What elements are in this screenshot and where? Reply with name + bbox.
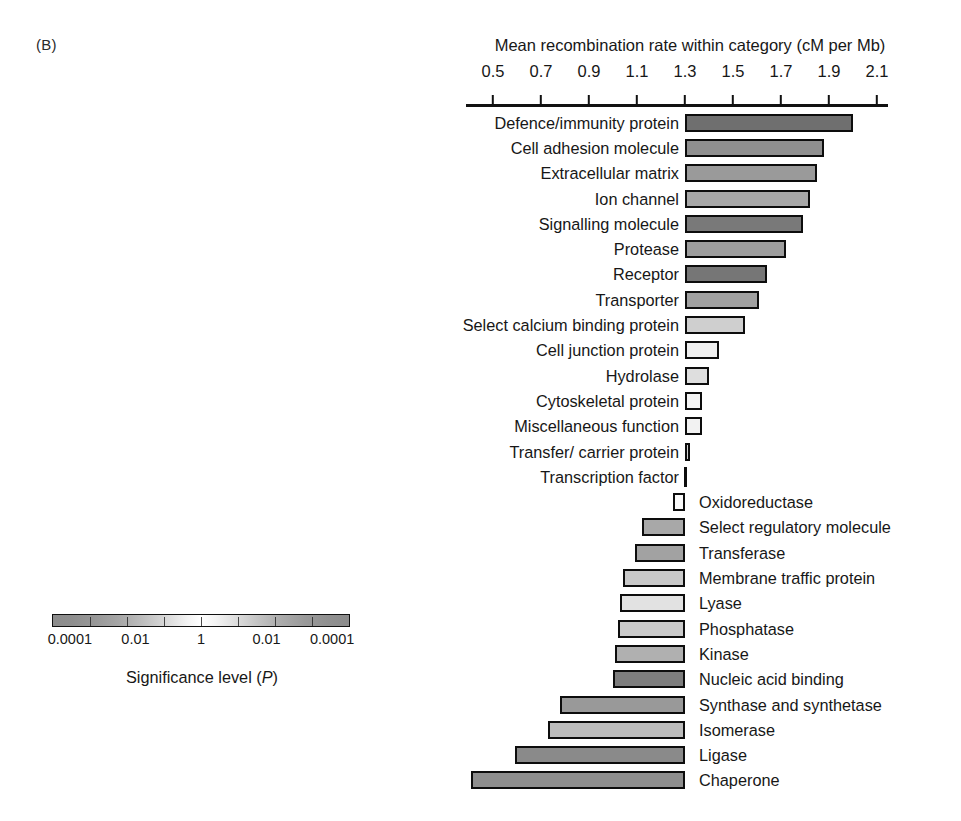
bar-category-label: Protease: [614, 241, 679, 257]
bar-row: Ion channel: [0, 186, 961, 211]
x-tick-label: 1.1: [626, 62, 649, 81]
bar: [642, 518, 685, 536]
x-tick-label: 1.5: [722, 62, 745, 81]
legend-caption-end: ): [273, 668, 278, 686]
bar: [548, 721, 685, 739]
bar: [635, 544, 685, 562]
colorbar-tick: [312, 617, 313, 626]
bar-category-label: Transcription factor: [540, 469, 679, 485]
x-tick-label: 2.1: [866, 62, 889, 81]
bar: [685, 114, 853, 132]
bar-row: Receptor: [0, 262, 961, 287]
bar-row: Cell junction protein: [0, 338, 961, 363]
x-tick-label: 1.7: [770, 62, 793, 81]
bar: [515, 746, 685, 764]
bar: [685, 417, 702, 435]
bar: [620, 594, 685, 612]
bar: [685, 190, 810, 208]
bar-category-label: Cell adhesion molecule: [511, 140, 679, 156]
bar: [685, 291, 759, 309]
bar-category-label: Hydrolase: [606, 367, 679, 383]
bar-category-label: Oxidoreductase: [699, 494, 813, 510]
figure-panel: (B) Mean recombination rate within categ…: [0, 0, 961, 821]
bar-row: Select regulatory molecule: [0, 515, 961, 540]
x-tick-mark: [780, 95, 782, 105]
bar: [618, 620, 685, 638]
colorbar-tick: [127, 617, 128, 626]
bar-row: Isomerase: [0, 717, 961, 742]
bar-row: Transfer/ carrier protein: [0, 439, 961, 464]
legend-caption: Significance level (P): [52, 668, 352, 687]
bar-row: Lyase: [0, 591, 961, 616]
x-tick-mark: [492, 95, 494, 105]
bar-row: Oxidoreductase: [0, 490, 961, 515]
significance-colorbar-legend: 0.00010.0110.010.0001: [52, 614, 352, 653]
bar-category-label: Cell junction protein: [536, 342, 679, 358]
colorbar-label: 0.0001: [48, 631, 92, 647]
bar: [673, 493, 685, 511]
bar: [684, 467, 687, 487]
bar-category-label: Transferase: [699, 545, 785, 561]
legend-caption-italic: P: [262, 668, 273, 686]
bar-category-label: Kinase: [699, 646, 749, 662]
bar-row: Chaperone: [0, 768, 961, 793]
bar-plot-area: Defence/immunity proteinCell adhesion mo…: [0, 110, 961, 810]
x-axis-line: [466, 104, 888, 107]
x-tick-label: 0.5: [482, 62, 505, 81]
bar-category-label: Receptor: [613, 266, 679, 282]
bar: [685, 215, 803, 233]
bar-row: Signalling molecule: [0, 211, 961, 236]
bar: [685, 392, 702, 410]
bar: [685, 240, 786, 258]
bar-category-label: Transporter: [595, 292, 679, 308]
bar-category-label: Select regulatory molecule: [699, 519, 891, 535]
x-tick-mark: [684, 95, 686, 105]
x-tick-mark: [732, 95, 734, 105]
colorbar-tick: [275, 617, 276, 626]
bar-row: Defence/immunity protein: [0, 110, 961, 135]
x-tick-mark: [588, 95, 590, 105]
bar: [560, 696, 685, 714]
bar: [685, 316, 745, 334]
bar-row: Miscellaneous function: [0, 414, 961, 439]
bar-category-label: Phosphatase: [699, 620, 794, 636]
bar: [685, 367, 709, 385]
bar-category-label: Ion channel: [595, 190, 679, 206]
colorbar-label: 0.01: [252, 631, 280, 647]
bar-row: Membrane traffic protein: [0, 565, 961, 590]
x-axis-title: Mean recombination rate within category …: [425, 36, 955, 55]
bar-row: Extracellular matrix: [0, 161, 961, 186]
bar-row: Protease: [0, 237, 961, 262]
bar-row: Transcription factor: [0, 464, 961, 489]
bar-row: Cell adhesion molecule: [0, 135, 961, 160]
bar-row: Transferase: [0, 540, 961, 565]
x-tick-mark: [876, 95, 878, 105]
bar-category-label: Ligase: [699, 747, 747, 763]
bar: [623, 569, 685, 587]
x-tick-mark: [828, 95, 830, 105]
bar-category-label: Isomerase: [699, 722, 775, 738]
x-tick-label: 1.3: [674, 62, 697, 81]
bar-category-label: Synthase and synthetase: [699, 696, 882, 712]
panel-letter: (B): [36, 36, 57, 53]
bar: [685, 265, 767, 283]
colorbar-tick: [238, 617, 239, 626]
bar: [471, 771, 685, 789]
bar-category-label: Lyase: [699, 595, 742, 611]
colorbar-label: 0.0001: [310, 631, 354, 647]
colorbar-label: 1: [197, 631, 205, 647]
bar-category-label: Signalling molecule: [539, 216, 679, 232]
bar-category-label: Cytoskeletal protein: [536, 393, 679, 409]
bar: [685, 164, 817, 182]
bar-row: Cytoskeletal protein: [0, 388, 961, 413]
colorbar-tick: [164, 617, 165, 626]
bar: [685, 341, 719, 359]
colorbar-tick: [201, 617, 202, 626]
bar: [615, 645, 685, 663]
bar-category-label: Membrane traffic protein: [699, 570, 875, 586]
bar-category-label: Miscellaneous function: [514, 418, 679, 434]
legend-caption-text: Significance level (: [126, 668, 262, 686]
bar-category-label: Transfer/ carrier protein: [510, 443, 680, 459]
colorbar-label: 0.01: [121, 631, 149, 647]
x-axis-tick-labels: 0.50.70.91.11.31.51.71.92.1: [0, 62, 961, 86]
